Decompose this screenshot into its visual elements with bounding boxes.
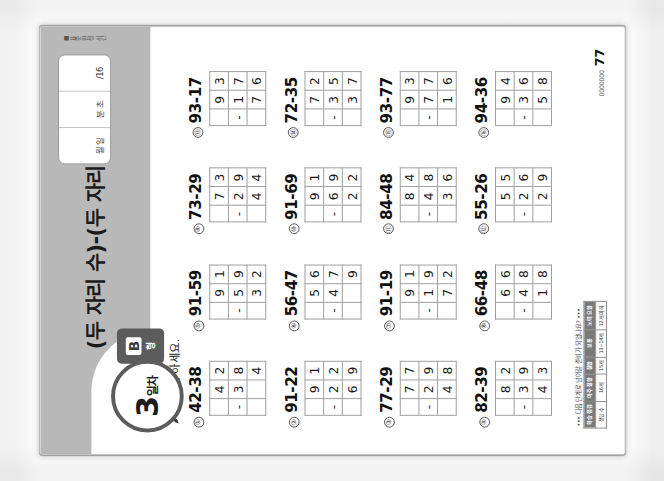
- answer-digit-ones[interactable]: 4: [247, 361, 266, 380]
- problem-expression: 91-19: [378, 270, 396, 316]
- calc-row-minuend: 93: [209, 72, 228, 126]
- answer-digit-tens[interactable]: 1: [532, 283, 551, 302]
- answer-digit-ones[interactable]: 8: [437, 361, 456, 380]
- calc-row-answer: 9: [342, 265, 361, 319]
- meta-cell-score[interactable]: /16: [59, 55, 110, 90]
- answer-blank: [247, 399, 266, 416]
- calc-row-answer: 48: [437, 361, 456, 415]
- subtrahend-digit-tens: 3: [228, 380, 247, 399]
- problem-item: ⑮93-7793-7716: [378, 49, 465, 140]
- answer-digit-ones[interactable]: 2: [437, 265, 456, 284]
- subtrahend-digit-ones: 8: [418, 168, 437, 187]
- problem-item: ⑦91-1991-1972: [378, 241, 465, 332]
- answer-digit-ones[interactable]: 2: [247, 265, 266, 284]
- answer-digit-ones[interactable]: 6: [437, 72, 456, 91]
- minuend-blank: [400, 302, 419, 319]
- check-cell: 16개: [595, 374, 606, 401]
- calc-row-minuend: 91: [305, 361, 324, 415]
- minuend-digit-ones: 6: [305, 265, 324, 284]
- answer-digit-tens[interactable]: 2: [532, 187, 551, 206]
- vertical-calculation-table[interactable]: 91-6922: [304, 168, 361, 223]
- meta-cell-date[interactable]: 월 일: [59, 127, 110, 163]
- vertical-calculation-table[interactable]: 55-2629: [495, 168, 552, 223]
- calc-row-minuend: 66: [495, 265, 514, 319]
- minuend-digit-tens: 7: [209, 187, 228, 206]
- worksheet-sheet: (두 자리 수)-(두 자리 수) 3 일차 B 형 월 일 분 초: [39, 26, 625, 455]
- meta-label-time: 분 초: [93, 101, 105, 118]
- problem-expression: 94-36: [473, 77, 491, 123]
- answer-digit-tens[interactable]: 3: [247, 283, 266, 302]
- answer-digit-tens[interactable]: 4: [532, 380, 551, 399]
- vertical-calculation-table[interactable]: 94-3658: [495, 71, 552, 126]
- problem-expression: 84-48: [378, 174, 396, 220]
- answer-digit-ones[interactable]: 4: [247, 168, 266, 187]
- subtrahend-digit-ones: 7: [323, 265, 342, 284]
- calc-row-subtrahend: -17: [228, 72, 247, 126]
- vertical-calculation-table[interactable]: 91-1972: [399, 264, 456, 319]
- answer-digit-ones[interactable]: 8: [532, 72, 551, 91]
- answer-digit-tens[interactable]: 3: [437, 187, 456, 206]
- vertical-calculation-table[interactable]: 42-384: [209, 361, 266, 416]
- minus-operator: -: [514, 206, 533, 223]
- vertical-calculation-table[interactable]: 66-4818: [495, 264, 552, 319]
- problem-item: ⑭72-3572-3537: [282, 49, 369, 140]
- answer-digit-tens[interactable]: 1: [437, 90, 456, 109]
- check-cell: 정답 수: [595, 401, 606, 428]
- calc-row-minuend: 93: [400, 72, 419, 126]
- answer-digit-ones[interactable]: 3: [532, 361, 551, 380]
- vertical-calculation-table[interactable]: 91-5932: [209, 264, 266, 319]
- subtrahend-digit-tens: 2: [418, 380, 437, 399]
- minuend-blank: [495, 206, 514, 223]
- answer-digit-ones[interactable]: 2: [342, 168, 361, 187]
- calc-row-answer: 58: [532, 72, 551, 126]
- answer-digit-ones[interactable]: 9: [532, 168, 551, 187]
- answer-digit-ones[interactable]: 7: [342, 72, 361, 91]
- self-check-table: 학습 점검아주 잘함잘함보통노력 요함정답 수16개15개13~14개12개 이…: [583, 301, 607, 428]
- answer-digit-tens[interactable]: 7: [247, 90, 266, 109]
- subtrahend-digit-tens: 3: [323, 90, 342, 109]
- answer-blank: [342, 206, 361, 223]
- answer-digit-tens[interactable]: 4: [247, 187, 266, 206]
- answer-digit-tens[interactable]: [342, 283, 361, 302]
- vertical-calculation-table[interactable]: 93-1776: [209, 71, 266, 126]
- answer-digit-tens[interactable]: 6: [342, 380, 361, 399]
- answer-digit-tens[interactable]: 7: [437, 283, 456, 302]
- answer-blank: [247, 109, 266, 126]
- answer-digit-tens[interactable]: 4: [437, 380, 456, 399]
- calc-row-subtrahend: -35: [323, 72, 342, 126]
- answer-digit-ones[interactable]: 6: [247, 72, 266, 91]
- vertical-calculation-table[interactable]: 91-2269: [304, 361, 361, 416]
- vertical-calculation-table[interactable]: 72-3537: [304, 71, 361, 126]
- answer-digit-tens[interactable]: 3: [342, 90, 361, 109]
- answer-digit-tens[interactable]: 2: [342, 187, 361, 206]
- minus-operator: -: [228, 399, 247, 416]
- date-time-score-box[interactable]: 월 일 분 초 /16: [58, 54, 111, 164]
- calc-row-minuend: 91: [400, 265, 419, 319]
- answer-blank: [532, 302, 551, 319]
- answer-digit-tens[interactable]: [247, 380, 266, 399]
- answer-digit-tens[interactable]: 5: [532, 90, 551, 109]
- vertical-calculation-table[interactable]: 73-2944: [209, 168, 266, 223]
- problem-expression: 91-22: [282, 367, 300, 413]
- vertical-calculation-table[interactable]: 82-3943: [495, 361, 552, 416]
- problem-header: ⑮93-77: [378, 77, 396, 139]
- vertical-calculation-table[interactable]: 77-2948: [399, 361, 456, 416]
- calc-row-subtrahend: -77: [418, 72, 437, 126]
- answer-digit-ones[interactable]: 6: [437, 168, 456, 187]
- vertical-calculation-table[interactable]: 56-479: [304, 264, 361, 319]
- vertical-calculation-table[interactable]: 84-4836: [399, 168, 456, 223]
- meta-cell-time[interactable]: 분 초: [59, 91, 110, 127]
- problem-item: ④82-3982-3943: [473, 338, 560, 429]
- vertical-calculation-table[interactable]: 93-7716: [399, 71, 456, 126]
- problem-item: ⑫55-2655-2629: [473, 145, 560, 236]
- answer-digit-ones[interactable]: 8: [532, 265, 551, 284]
- subtrahend-digit-ones: 9: [323, 168, 342, 187]
- calc-row-answer: 37: [342, 72, 361, 126]
- problem-item: ⑪84-4884-4836: [378, 145, 465, 236]
- problem-number: ⑮: [382, 127, 393, 138]
- answer-digit-ones[interactable]: 9: [342, 265, 361, 284]
- answer-digit-ones[interactable]: 9: [342, 361, 361, 380]
- calc-row-subtrahend: -39: [514, 361, 533, 415]
- calc-row-subtrahend: -26: [514, 168, 533, 222]
- minuend-digit-ones: 3: [209, 168, 228, 187]
